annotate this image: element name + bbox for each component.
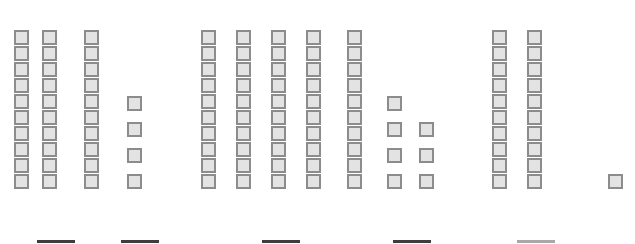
unit-square (306, 62, 321, 77)
unit-square (527, 126, 542, 141)
unit-square (347, 30, 362, 45)
label-rule-3 (262, 240, 300, 243)
unit-square (271, 110, 286, 125)
unit-square (42, 46, 57, 61)
unit-square (236, 126, 251, 141)
unit-square (84, 46, 99, 61)
label-rule-2 (121, 240, 159, 243)
column-3 (84, 0, 99, 189)
unit-square (527, 94, 542, 109)
unit-square (271, 78, 286, 93)
unit-square (492, 142, 507, 157)
unit-square (201, 142, 216, 157)
unit-square (14, 94, 29, 109)
unit-square (201, 158, 216, 173)
unit-square (14, 158, 29, 173)
unit-square (42, 158, 57, 173)
unit-square (527, 78, 542, 93)
unit-square (201, 78, 216, 93)
column-1 (14, 0, 29, 189)
unit-square (347, 142, 362, 157)
unit-square (127, 148, 142, 163)
unit-square (201, 94, 216, 109)
column-7 (271, 0, 286, 189)
unit-square (347, 174, 362, 189)
unit-square (271, 142, 286, 157)
unit-square (236, 94, 251, 109)
unit-square (527, 62, 542, 77)
unit-square (347, 158, 362, 173)
unit-square (14, 174, 29, 189)
unit-square (42, 142, 57, 157)
unit-square (387, 148, 402, 163)
unit-square (236, 142, 251, 157)
unit-square (84, 126, 99, 141)
unit-square (127, 122, 142, 137)
unit-square (527, 30, 542, 45)
unit-square (42, 94, 57, 109)
unit-square (84, 78, 99, 93)
unit-square (492, 94, 507, 109)
unit-square (527, 46, 542, 61)
unit-square (236, 78, 251, 93)
unit-square (527, 142, 542, 157)
unit-square (347, 126, 362, 141)
unit-square (306, 78, 321, 93)
unit-square (306, 46, 321, 61)
unit-square (492, 46, 507, 61)
unit-square (608, 174, 623, 189)
unit-square (347, 110, 362, 125)
unit-square (419, 122, 434, 137)
unit-square (387, 96, 402, 111)
unit-square (271, 30, 286, 45)
unit-square (236, 46, 251, 61)
unit-square (347, 94, 362, 109)
unit-square (236, 174, 251, 189)
column-5 (201, 0, 216, 189)
unit-square (387, 122, 402, 137)
unit-square (347, 78, 362, 93)
unit-square (236, 158, 251, 173)
label-rule-5 (517, 240, 555, 243)
unit-square (492, 78, 507, 93)
column-8 (306, 0, 321, 189)
unit-square (419, 174, 434, 189)
unit-square (306, 94, 321, 109)
unit-square (347, 62, 362, 77)
unit-square (201, 110, 216, 125)
unit-square (42, 78, 57, 93)
unit-square (492, 158, 507, 173)
unit-square (201, 126, 216, 141)
unit-square (306, 126, 321, 141)
unit-square (236, 110, 251, 125)
column-14 (608, 0, 623, 189)
unit-square (492, 126, 507, 141)
unit-square (347, 46, 362, 61)
unit-square (14, 78, 29, 93)
column-11 (419, 0, 434, 189)
unit-square (271, 174, 286, 189)
unit-square (42, 62, 57, 77)
column-6 (236, 0, 251, 189)
column-10 (387, 0, 402, 189)
unit-square (271, 62, 286, 77)
unit-square (236, 62, 251, 77)
unit-square (492, 30, 507, 45)
column-9 (347, 0, 362, 189)
unit-square (419, 148, 434, 163)
unit-square (42, 174, 57, 189)
unit-square (201, 62, 216, 77)
label-rule-4 (393, 240, 431, 243)
unit-square (306, 174, 321, 189)
unit-square (42, 110, 57, 125)
unit-square (201, 30, 216, 45)
unit-square (14, 142, 29, 157)
unit-square (84, 110, 99, 125)
unit-square (387, 174, 402, 189)
unit-square (306, 110, 321, 125)
unit-square (527, 174, 542, 189)
unit-square (271, 46, 286, 61)
unit-square (127, 96, 142, 111)
unit-square (42, 126, 57, 141)
column-12 (492, 0, 507, 189)
